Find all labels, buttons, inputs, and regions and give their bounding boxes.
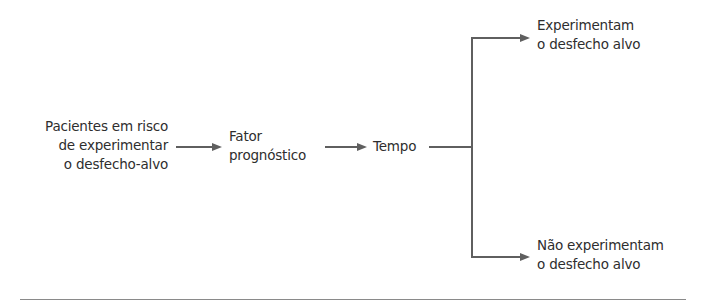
node-line: o desfecho alvo: [537, 35, 640, 54]
node-line: o desfecho alvo: [537, 255, 664, 274]
branch-top-shaft: [471, 37, 521, 39]
node-line: de experimentar: [20, 136, 168, 155]
arrow-head-icon: [357, 143, 367, 151]
arrow-shaft: [176, 146, 214, 148]
bottom-divider: [20, 299, 686, 300]
node-line: prognóstico: [229, 146, 306, 165]
node-no-outcome: Não experimentam o desfecho alvo: [537, 236, 664, 274]
arrow-head-icon: [520, 253, 530, 261]
node-line: Fator: [229, 127, 306, 146]
node-line: o desfecho-alvo: [20, 155, 168, 174]
branch-stem: [429, 146, 472, 148]
arrow-head-icon: [520, 34, 530, 42]
node-line: Experimentam: [537, 16, 640, 35]
branch-bottom-shaft: [471, 256, 521, 258]
arrow-shaft: [325, 146, 359, 148]
node-experience-outcome: Experimentam o desfecho alvo: [537, 16, 640, 54]
node-line: Não experimentam: [537, 236, 664, 255]
arrow-head-icon: [212, 143, 222, 151]
branch-vertical: [471, 37, 473, 258]
node-line: Pacientes em risco: [20, 117, 168, 136]
node-prognostic-factor: Fator prognóstico: [229, 127, 306, 165]
node-time: Tempo: [373, 137, 416, 156]
node-patients-at-risk: Pacientes em risco de experimentar o des…: [20, 117, 168, 174]
